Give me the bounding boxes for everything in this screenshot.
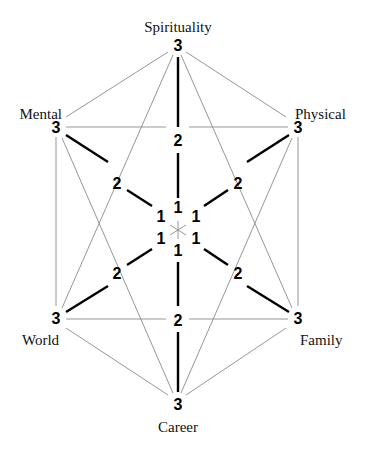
level-3-physical: 3 [294, 119, 303, 136]
level-3-world: 3 [52, 310, 61, 327]
level-1-physical: 1 [192, 208, 201, 225]
level-1-world: 1 [157, 230, 166, 247]
hexagon-diagram: Spirituality Physical Mental World Famil… [0, 0, 367, 454]
level-2-family: 2 [234, 265, 243, 282]
level-3-career: 3 [174, 396, 183, 413]
level-2-mental: 2 [113, 175, 122, 192]
axis-label-family: Family [300, 332, 343, 348]
level-3-mental: 3 [52, 119, 61, 136]
level-2-world: 2 [113, 265, 122, 282]
level-1-spirituality: 1 [174, 199, 183, 216]
level-1-family: 1 [192, 230, 201, 247]
level-2-spirituality: 2 [174, 132, 183, 149]
level-2-career: 2 [174, 312, 183, 329]
center-star [170, 221, 186, 239]
level-1-career: 1 [174, 242, 183, 259]
level-1-mental: 1 [157, 208, 166, 225]
axis-label-physical: Physical [295, 106, 346, 122]
level-3-family: 3 [294, 310, 303, 327]
level-2-physical: 2 [234, 175, 243, 192]
axis-label-career: Career [158, 419, 198, 435]
level-3-spirituality: 3 [174, 37, 183, 54]
axis-label-spirituality: Spirituality [144, 19, 212, 35]
axis-label-world: World [22, 332, 60, 348]
